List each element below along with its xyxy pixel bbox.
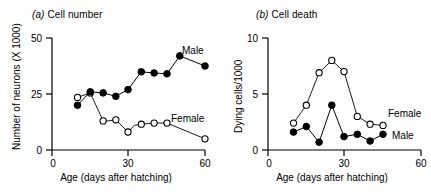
panel-a-ytick-25: 25 (22, 89, 42, 100)
female-point (113, 117, 119, 123)
male-point (380, 131, 387, 138)
panel-cell-number: (a) Cell number (0, 0, 215, 193)
female-point (367, 121, 373, 127)
female-point (380, 122, 386, 128)
panel-a-ylabel: Number of neurons (X 1000) (11, 23, 22, 150)
panel-b-xtick-30: 30 (337, 158, 351, 169)
female-point (303, 102, 309, 108)
female-point (329, 57, 335, 63)
male-point (367, 138, 374, 145)
panel-b-xtick-60: 60 (414, 158, 428, 169)
panel-a-xtick-60: 60 (198, 158, 212, 169)
male-point (87, 89, 94, 96)
female-point (151, 120, 157, 126)
panel-a-xtick-0: 0 (46, 158, 60, 169)
female-point (341, 69, 347, 75)
panel-a-ytick-0: 0 (22, 145, 42, 156)
panel-b-ytick-0: 0 (234, 145, 258, 156)
male-point (100, 90, 107, 97)
panel-cell-death: (b) Cell death (216, 0, 431, 193)
male-point (290, 129, 297, 136)
panel-b-xlabel: Age (days after hatching) (242, 172, 422, 184)
panel-b-xtick-0: 0 (262, 158, 276, 169)
male-point (74, 102, 81, 109)
male-line (78, 56, 206, 105)
panel-b-ytick-10: 10 (234, 33, 258, 44)
panel-b-ylabel: Dying cells/1000 (233, 60, 244, 133)
male-point (316, 139, 323, 146)
male-point (164, 71, 171, 78)
figure-root: (a) Cell number (0, 0, 431, 193)
female-point (74, 94, 80, 100)
panel-b-series-female (290, 57, 386, 128)
female-point (290, 120, 296, 126)
female-line (294, 60, 384, 125)
panel-a-label-male: Male (182, 45, 204, 56)
female-point (164, 120, 170, 126)
panel-b-label-male: Male (392, 130, 414, 141)
male-point (202, 63, 209, 70)
panel-a-xtick-30: 30 (121, 158, 135, 169)
panel-b-label-female: Female (388, 108, 421, 119)
female-point (316, 70, 322, 76)
female-point (354, 113, 360, 119)
male-point (341, 133, 348, 140)
female-point (202, 136, 208, 142)
female-point (125, 129, 131, 135)
male-point (138, 69, 145, 76)
panel-a-label-female: Female (171, 113, 204, 124)
female-point (100, 118, 106, 124)
female-point (138, 121, 144, 127)
male-point (151, 70, 158, 77)
panel-a-ytick-50: 50 (22, 33, 42, 44)
male-point (303, 123, 310, 130)
male-point (354, 131, 361, 138)
panel-a-xlabel: Age (days after hatching) (26, 172, 206, 184)
male-point (329, 102, 336, 109)
male-point (113, 93, 120, 100)
panel-a-series-male (74, 53, 208, 109)
male-point (125, 86, 132, 93)
